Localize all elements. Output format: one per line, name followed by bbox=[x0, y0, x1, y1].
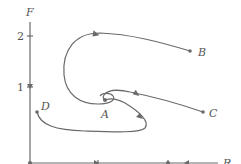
x-axis-point-2 bbox=[166, 161, 170, 164]
point-b-dot bbox=[188, 49, 192, 53]
phase-plane-diagram: F R 2 1 1 2 B C D A bbox=[0, 0, 241, 164]
point-d-dot bbox=[35, 110, 39, 114]
trajectory-b bbox=[64, 33, 190, 104]
point-a-label: A bbox=[100, 108, 109, 121]
origin-point bbox=[28, 161, 32, 164]
x-axis-label: R bbox=[222, 157, 231, 164]
trajectory-c-arrow-icon bbox=[133, 89, 141, 96]
point-d-label: D bbox=[40, 100, 50, 113]
point-b-label: B bbox=[197, 46, 206, 59]
y-tick-label-1: 1 bbox=[17, 81, 24, 94]
point-a-dot bbox=[103, 98, 107, 102]
point-c-dot bbox=[201, 110, 205, 114]
y-tick-label-2: 2 bbox=[17, 30, 24, 43]
point-c-label: C bbox=[209, 107, 218, 120]
y-axis-label: F bbox=[25, 6, 34, 19]
x-axis-arrow-icon bbox=[184, 160, 189, 164]
trajectory-c bbox=[103, 90, 203, 112]
